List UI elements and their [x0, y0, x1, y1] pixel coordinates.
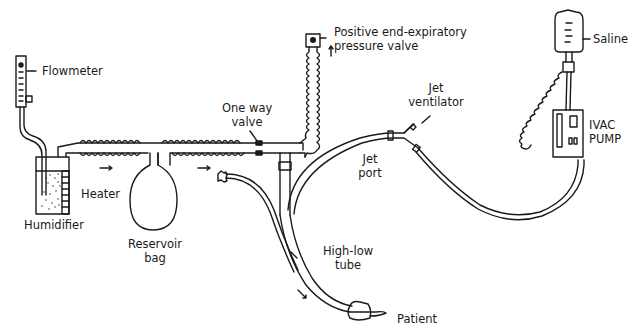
high-low-tube-label-line2: tube — [318, 259, 378, 272]
ivac-pump-label-line1: IVAC — [589, 119, 615, 132]
vertical-corrugated-tube — [300, 47, 320, 157]
patient-endotracheal-tip-icon — [348, 302, 386, 321]
flowmeter-label: Flowmeter — [42, 65, 103, 78]
reservoir-bag-label-line1: Reservoir — [124, 238, 186, 251]
one-way-valve-label-line2: valve — [222, 116, 272, 129]
high-low-tube-label-line1: High-low — [318, 245, 378, 258]
saline-bag-icon — [555, 10, 590, 72]
saline-label: Saline — [593, 33, 628, 46]
peep-valve-icon — [306, 34, 326, 47]
reservoir-bag-label-line2: bag — [124, 252, 186, 265]
corrugated-tubing — [58, 141, 300, 166]
heater-label: Heater — [81, 188, 120, 201]
jet-ventilator-label-line1: Jet — [416, 82, 456, 95]
jet-ventilator-label-line2: ventilator — [406, 96, 466, 109]
humidifier-icon — [36, 157, 69, 214]
peep-valve-label-line1: Positive end-expiratory — [334, 26, 467, 39]
humidifier-label: Humidifier — [24, 219, 84, 232]
diagram-drawing — [0, 0, 637, 330]
patient-label: Patient — [397, 313, 437, 326]
one-way-valve-label-line1: One way — [222, 102, 272, 115]
suction-catheter — [218, 171, 298, 272]
jet-port-label-line2: port — [350, 167, 390, 180]
jet-port-connector-icon — [388, 116, 430, 152]
ventilation-circuit-diagram: Flowmeter Humidifier Heater Reservoir ba… — [0, 0, 637, 330]
ivac-pump-label-line2: PUMP — [589, 133, 621, 146]
ivac-pump-icon — [520, 72, 584, 157]
flowmeter-icon — [16, 56, 36, 107]
peep-valve-label-line2: pressure valve — [334, 40, 418, 53]
jet-port-label-line1: Jet — [350, 153, 390, 166]
pump-line-tube — [416, 148, 584, 220]
